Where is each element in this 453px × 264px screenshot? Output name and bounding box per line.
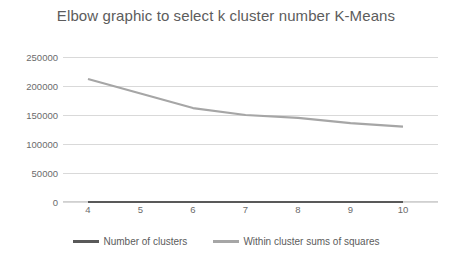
legend-label: Number of clusters [103,236,187,247]
y-axis-tick-labels: 250000200000150000100000500000 [0,57,58,202]
chart-legend: Number of clustersWithin cluster sums of… [0,236,453,247]
series-lines [63,57,438,202]
legend-item[interactable]: Within cluster sums of squares [213,236,379,247]
x-axis-tick-label: 8 [295,204,300,215]
legend-swatch-icon [73,240,99,243]
plot-area [63,57,438,202]
x-axis-tick-labels: 45678910 [63,204,438,220]
x-axis-tick-label: 6 [190,204,195,215]
legend-item[interactable]: Number of clusters [73,236,187,247]
x-axis-tick-label: 10 [398,204,409,215]
series-line [88,79,403,127]
legend-label: Within cluster sums of squares [243,236,379,247]
legend-swatch-icon [213,240,239,243]
chart-title: Elbow graphic to select k cluster number… [46,6,406,25]
y-axis-tick-label: 200000 [0,81,58,92]
y-axis-tick-label: 250000 [0,52,58,63]
x-axis-tick-label: 4 [85,204,90,215]
chart-container: Elbow graphic to select k cluster number… [0,0,453,264]
x-axis-tick-label: 5 [138,204,143,215]
y-axis-tick-label: 0 [0,197,58,208]
y-axis-tick-label: 150000 [0,110,58,121]
y-axis-tick-label: 100000 [0,139,58,150]
x-axis-tick-label: 7 [243,204,248,215]
y-axis-tick-label: 50000 [0,168,58,179]
x-axis-tick-label: 9 [348,204,353,215]
